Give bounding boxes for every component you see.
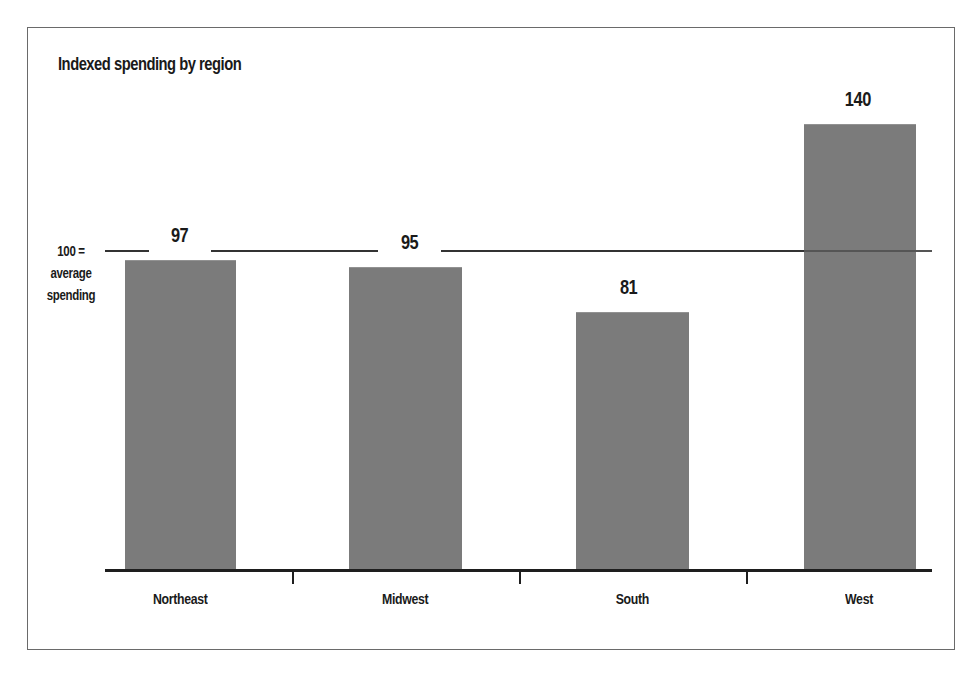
category-label-west: West — [789, 590, 929, 607]
reference-label-line-2: average — [42, 262, 99, 284]
value-label-south: 81 — [589, 276, 669, 299]
category-label-northeast: Northeast — [110, 590, 250, 607]
x-axis-tick — [519, 571, 521, 584]
reference-label-line-3: spending — [42, 284, 99, 306]
bar-south — [576, 312, 689, 570]
reference-line-segment — [105, 250, 149, 252]
x-axis-tick — [292, 571, 294, 584]
x-axis-tick — [746, 571, 748, 584]
reference-label-line-1: 100 = — [42, 240, 99, 262]
value-label-northeast: 97 — [140, 224, 220, 247]
bar-west — [804, 124, 916, 570]
reference-line-over-west — [804, 250, 932, 252]
value-label-west: 140 — [818, 88, 898, 111]
chart-title: Indexed spending by region — [58, 54, 241, 75]
category-label-south: South — [562, 590, 702, 607]
reference-line-segment — [211, 250, 378, 252]
reference-line-label: 100 = average spending — [36, 240, 106, 306]
category-label-midwest: Midwest — [335, 590, 475, 607]
bar-northeast — [125, 260, 236, 570]
bar-midwest — [349, 267, 462, 570]
value-label-midwest: 95 — [370, 231, 450, 254]
